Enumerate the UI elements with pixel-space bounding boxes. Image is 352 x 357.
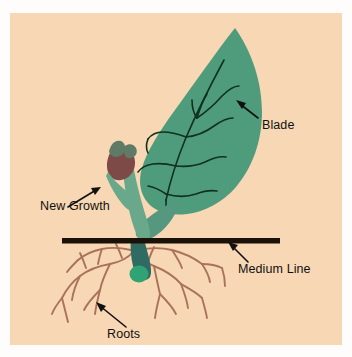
plant-diagram-illustration xyxy=(0,0,352,357)
root-branch xyxy=(98,249,102,264)
label-roots: Roots xyxy=(107,328,140,341)
root-branch xyxy=(116,244,122,258)
arrow-icon-roots xyxy=(96,302,126,327)
label-blade: Blade xyxy=(262,119,294,132)
root-branch xyxy=(160,294,176,314)
root-branch xyxy=(202,298,207,318)
root-branch xyxy=(52,298,62,314)
root-branch xyxy=(62,298,68,322)
leaf-vein xyxy=(147,139,149,153)
medium-line-bar xyxy=(62,238,280,244)
label-medium-line: Medium Line xyxy=(238,263,311,276)
stem-growing-tip xyxy=(130,266,149,283)
root-branch xyxy=(78,248,131,260)
root-branch xyxy=(67,260,78,272)
leaf-blade xyxy=(140,28,262,215)
root-branch xyxy=(62,252,133,298)
root-branch xyxy=(222,268,225,286)
new-growth-bud-leaflet xyxy=(124,144,137,158)
root-branch xyxy=(100,264,110,290)
root-branch xyxy=(154,266,160,294)
root-branch xyxy=(202,264,210,282)
root-branch xyxy=(155,294,160,318)
arrow-icon-medium-line xyxy=(228,242,248,262)
label-new-growth: New Growth xyxy=(40,200,110,213)
figure-container: Blade New Growth Medium Line Roots xyxy=(0,0,352,357)
